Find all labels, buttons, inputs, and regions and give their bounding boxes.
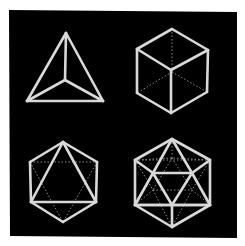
visible-edge: [207, 50, 208, 92]
visible-edge: [65, 33, 66, 80]
visible-edge: [96, 162, 97, 202]
platonic-solids-figure: [0, 0, 245, 246]
visible-edge: [30, 162, 31, 202]
